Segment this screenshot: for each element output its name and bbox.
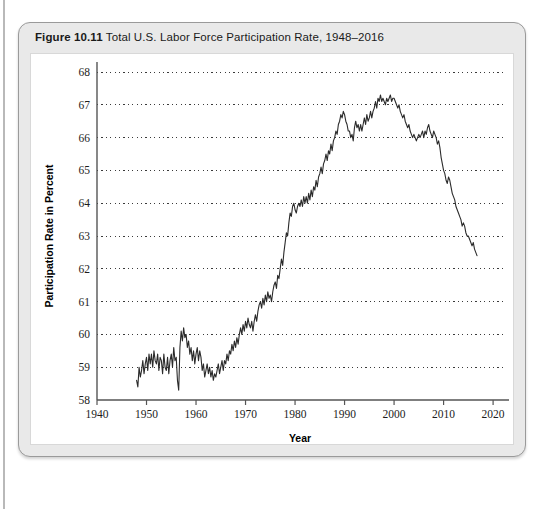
svg-text:2000: 2000 [383, 408, 406, 420]
svg-text:2010: 2010 [432, 408, 455, 420]
page-edge-rule [3, 0, 5, 509]
axis-ticks [97, 400, 493, 405]
svg-text:66: 66 [79, 132, 91, 144]
svg-text:65: 65 [79, 164, 91, 176]
svg-text:1940: 1940 [86, 408, 109, 420]
svg-text:1950: 1950 [135, 408, 158, 420]
gridlines [97, 72, 503, 367]
svg-text:67: 67 [79, 99, 91, 111]
x-axis-title: Year [289, 432, 311, 444]
svg-text:63: 63 [79, 230, 91, 242]
svg-text:1960: 1960 [185, 408, 208, 420]
chart-plot-panel: 5859606162636465666768194019501960197019… [30, 53, 514, 445]
svg-text:68: 68 [79, 66, 91, 78]
figure-caption: Figure 10.11 Total U.S. Labor Force Part… [35, 31, 505, 43]
svg-text:1990: 1990 [333, 408, 356, 420]
svg-text:2020: 2020 [482, 408, 505, 420]
data-series-layer [137, 95, 477, 390]
svg-text:64: 64 [79, 197, 91, 209]
svg-text:59: 59 [79, 361, 91, 373]
axis-lines [97, 62, 509, 400]
figure-card: Figure 10.11 Total U.S. Labor Force Part… [18, 22, 526, 457]
y-axis-title: Participation Rate in Percent [43, 164, 55, 307]
svg-text:1970: 1970 [234, 408, 257, 420]
svg-text:1980: 1980 [284, 408, 307, 420]
svg-text:62: 62 [79, 263, 91, 275]
figure-title: Total U.S. Labor Force Participation Rat… [106, 31, 384, 43]
figure-number: Figure 10.11 [35, 31, 103, 43]
svg-text:61: 61 [79, 296, 91, 308]
svg-text:58: 58 [79, 394, 91, 406]
svg-text:60: 60 [79, 328, 91, 340]
labor-force-participation-line-chart: 5859606162636465666768194019501960197019… [31, 54, 513, 444]
